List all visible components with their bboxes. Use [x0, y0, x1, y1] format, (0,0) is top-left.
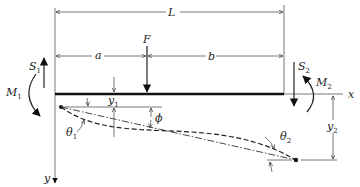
moment-m1-arrow — [29, 74, 40, 116]
b-label: b — [208, 50, 215, 63]
theta1-pointer — [77, 120, 84, 132]
tangent-pointer-right — [270, 162, 272, 172]
y1-label: y1 — [107, 94, 119, 109]
x-axis-label: x — [348, 88, 355, 101]
y2-label: y2 — [326, 120, 338, 135]
phi-label: ϕ — [155, 112, 163, 125]
tangent-pointer-left — [87, 98, 88, 106]
shear-s2-label: S2 — [298, 60, 310, 75]
a-label: a — [95, 49, 102, 62]
beam-diagram: y L a b F x S1 M1 S2 M2 — [0, 0, 360, 187]
y-axis-label: y — [43, 172, 51, 185]
length-label: L — [167, 6, 175, 19]
force-label: F — [142, 33, 151, 46]
phi-arrow-bottom — [150, 120, 151, 128]
theta2-label: θ2 — [280, 130, 291, 145]
theta1-label: θ1 — [66, 126, 77, 141]
right-end-point — [294, 158, 298, 162]
moment-m2-label: M2 — [315, 76, 332, 91]
shear-s1-label: S1 — [29, 60, 41, 75]
moment-m1-label: M1 — [5, 86, 22, 101]
chord-line — [61, 107, 296, 160]
